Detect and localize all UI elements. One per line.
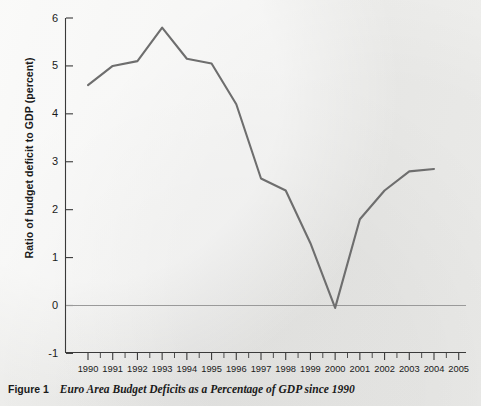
chart-plot-area <box>0 0 481 406</box>
y-axis-ticks <box>66 18 73 353</box>
deficit-series-line <box>88 28 434 308</box>
x-axis-ticks <box>88 353 459 360</box>
figure-number: Figure 1 <box>8 383 49 395</box>
x-tick-label: 1997 <box>248 365 274 374</box>
y-tick-label: 2 <box>32 204 58 215</box>
x-tick-label: 1996 <box>223 365 249 374</box>
x-tick-label: 1994 <box>174 365 200 374</box>
figure-title: Euro Area Budget Deficits as a Percentag… <box>60 383 355 395</box>
x-tick-label: 1995 <box>199 365 225 374</box>
y-tick-label: 5 <box>32 60 58 71</box>
y-tick-label: 0 <box>32 300 58 311</box>
x-tick-label: 2001 <box>347 365 373 374</box>
x-tick-label: 1991 <box>100 365 126 374</box>
x-tick-label: 2000 <box>322 365 348 374</box>
x-tick-label: 1992 <box>124 365 150 374</box>
y-tick-label: 4 <box>32 108 58 119</box>
figure-chart: Ratio of budget deficit to GDP (percent)… <box>0 0 481 406</box>
y-tick-label: 1 <box>32 252 58 263</box>
y-tick-label: 3 <box>32 156 58 167</box>
x-tick-label: 1993 <box>149 365 175 374</box>
x-tick-label: 2005 <box>446 365 472 374</box>
x-tick-label: 2004 <box>421 365 447 374</box>
x-tick-label: 2002 <box>372 365 398 374</box>
x-tick-label: 1990 <box>75 365 101 374</box>
y-tick-label: 6 <box>32 13 58 24</box>
x-tick-label: 1999 <box>297 365 323 374</box>
x-tick-label: 2003 <box>396 365 422 374</box>
figure-caption: Figure 1Euro Area Budget Deficits as a P… <box>8 383 355 395</box>
x-tick-label: 1998 <box>273 365 299 374</box>
y-tick-label: -1 <box>32 348 58 359</box>
